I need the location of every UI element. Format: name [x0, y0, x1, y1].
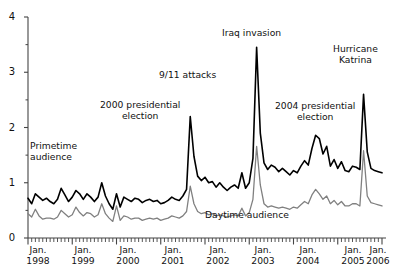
annotation-daytime-audience: Daytime audience — [205, 210, 289, 221]
annotation-primetime-line2: audience — [30, 151, 72, 162]
annotation-hurricane-katrina: Hurricane Katrina — [333, 44, 378, 65]
x-tick-year-1998: 1998 — [26, 255, 49, 266]
x-tick-year-1999: 1999 — [71, 255, 94, 266]
x-tick-label-2000: Jan. 2000 — [108, 245, 148, 266]
x-tick-month-2000: Jan. — [119, 244, 136, 255]
y-tick-label-4: 4 — [1, 11, 15, 22]
x-tick-label-2006: Jan. 2006 — [358, 245, 398, 266]
y-tick-label-1: 1 — [1, 177, 15, 188]
x-tick-month-2004: Jan. — [299, 244, 316, 255]
x-tick-month-2001: Jan. — [164, 244, 181, 255]
annotation-911-attacks: 9/11 attacks — [159, 70, 216, 81]
x-tick-label-2001: Jan. 2001 — [153, 245, 193, 266]
annotation-katrina-line2: Katrina — [339, 54, 372, 65]
x-tick-year-2001: 2001 — [161, 255, 184, 266]
x-tick-year-2002: 2002 — [206, 255, 229, 266]
annotation-iraq-invasion: Iraq invasion — [222, 28, 281, 39]
x-tick-month-2003: Jan. — [254, 244, 271, 255]
x-tick-year-2006: 2006 — [366, 255, 389, 266]
annotation-2004-election: 2004 presidential election — [275, 101, 355, 122]
annotation-2000-election-line1: 2000 presidential — [100, 99, 180, 110]
annotation-primetime-audience: Primetime audience — [30, 141, 77, 162]
plot-area — [0, 0, 401, 272]
x-tick-label-2002: Jan. 2002 — [198, 245, 238, 266]
x-tick-year-2003: 2003 — [251, 255, 274, 266]
x-tick-label-2004: Jan. 2004 — [288, 245, 328, 266]
annotation-2004-election-line2: election — [297, 111, 334, 122]
y-tick-label-3: 3 — [1, 66, 15, 77]
x-tick-month-2002: Jan. — [209, 244, 226, 255]
x-tick-year-2000: 2000 — [116, 255, 139, 266]
y-tick-label-0: 0 — [1, 232, 15, 243]
annotation-primetime-line1: Primetime — [30, 140, 77, 151]
annotation-2000-election-line2: election — [122, 110, 159, 121]
annotation-2000-election: 2000 presidential election — [100, 100, 180, 121]
x-tick-month-2006: Jan. — [369, 244, 386, 255]
annotation-katrina-line1: Hurricane — [333, 43, 378, 54]
chart-figure: 4 3 2 1 0 Jan. 1998 Jan. 1999 Jan. 2000 … — [0, 0, 401, 272]
x-tick-label-1998: Jan. 1998 — [18, 245, 58, 266]
annotation-2004-election-line1: 2004 presidential — [275, 100, 355, 111]
x-tick-label-1999: Jan. 1999 — [63, 245, 103, 266]
y-tick-label-2: 2 — [1, 122, 15, 133]
x-tick-label-2003: Jan. 2003 — [243, 245, 283, 266]
x-tick-month-1999: Jan. — [74, 244, 91, 255]
x-tick-year-2004: 2004 — [296, 255, 319, 266]
x-tick-month-1998: Jan. — [29, 244, 46, 255]
